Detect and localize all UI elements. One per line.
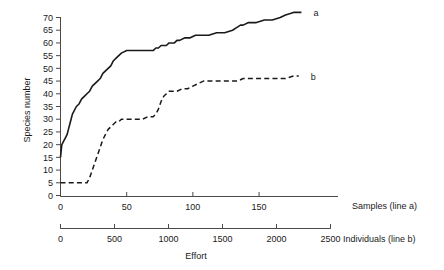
- samples-tick-label: 100: [185, 202, 200, 212]
- individuals-tick-label: 2500: [320, 234, 340, 244]
- samples-tick-label: 0: [58, 202, 63, 212]
- individuals-tick-label: 500: [107, 234, 122, 244]
- series-b-label: b: [311, 72, 316, 82]
- samples-axis-title: Samples (line a): [352, 201, 417, 211]
- y-tick-label: 0: [48, 191, 53, 201]
- samples-tick-label: 150: [252, 202, 267, 212]
- individuals-axis-ticks: 05001000150020002500: [58, 224, 341, 244]
- y-tick-label: 30: [43, 114, 53, 124]
- individuals-axis: 05001000150020002500 Individuals (line b…: [58, 224, 416, 244]
- y-tick-label: 70: [43, 13, 53, 23]
- y-axis-ticks: 0510152025303540455055606570: [43, 13, 61, 201]
- y-tick-label: 10: [43, 165, 53, 175]
- samples-axis: 050100150 Samples (line a): [58, 192, 417, 212]
- individuals-tick-label: 2000: [266, 234, 286, 244]
- series-b-line: [61, 76, 299, 183]
- samples-axis-ticks: 050100150: [58, 192, 267, 212]
- series-a-line: [61, 12, 302, 157]
- series-a-label: a: [313, 8, 318, 18]
- y-tick-label: 40: [43, 89, 53, 99]
- individuals-tick-label: 1500: [212, 234, 232, 244]
- y-tick-label: 60: [43, 38, 53, 48]
- y-tick-label: 45: [43, 76, 53, 86]
- y-tick-label: 5: [48, 178, 53, 188]
- y-tick-label: 35: [43, 102, 53, 112]
- y-tick-label: 20: [43, 140, 53, 150]
- y-tick-label: 55: [43, 51, 53, 61]
- species-accumulation-chart: Species number 0510152025303540455055606…: [0, 0, 444, 270]
- individuals-tick-label: 1000: [158, 234, 178, 244]
- y-tick-label: 50: [43, 64, 53, 74]
- x-axis-title: Effort: [185, 251, 207, 261]
- samples-tick-label: 50: [122, 202, 132, 212]
- y-axis-title: Species number: [22, 77, 32, 142]
- y-tick-label: 25: [43, 127, 53, 137]
- individuals-tick-label: 0: [58, 234, 63, 244]
- y-tick-label: 65: [43, 25, 53, 35]
- individuals-axis-title: Individuals (line b): [343, 234, 416, 244]
- y-tick-label: 15: [43, 153, 53, 163]
